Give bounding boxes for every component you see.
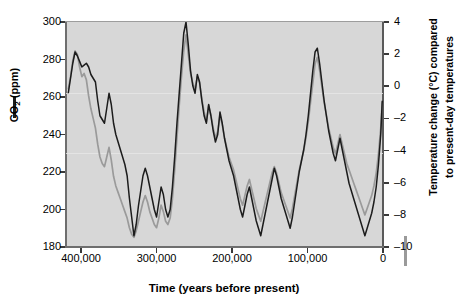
y-tick-right <box>384 85 389 87</box>
x-tick-label: 400,000 <box>41 252 121 264</box>
y-tick-label-left: 300 <box>21 15 61 27</box>
y-tick-label-left: 180 <box>21 240 61 252</box>
y-tick-label-left: 240 <box>21 128 61 140</box>
x-tick-label: 100,000 <box>268 252 348 264</box>
y-tick-right <box>384 182 389 184</box>
y-tick-label-right: –8 <box>394 208 434 220</box>
series-temperature-line <box>68 35 382 238</box>
y-tick-label-left: 200 <box>21 203 61 215</box>
y-tick-right <box>384 214 389 216</box>
series-co2-line <box>68 22 382 236</box>
y-tick-label-right: 0 <box>394 79 434 91</box>
y-tick-right <box>384 21 389 23</box>
y-tick-right <box>384 150 389 152</box>
y-tick-label-right: –2 <box>394 111 434 123</box>
y-tick-label-left: 260 <box>21 90 61 102</box>
y-tick-label-right: 4 <box>394 15 434 27</box>
x-tick-label: 200,000 <box>192 252 272 264</box>
y-tick-label-right: –10 <box>394 240 434 252</box>
y-tick-label-right: –6 <box>394 176 434 188</box>
y-tick-right <box>384 118 389 120</box>
series-layer <box>66 22 383 247</box>
right-axis-title-line2: to present-day temperatures <box>441 0 457 232</box>
y-tick-label-left: 220 <box>21 165 61 177</box>
y-tick-label-right: –4 <box>394 144 434 156</box>
left-axis-title: CO2 (ppm) <box>8 35 22 155</box>
plot-area <box>66 22 383 247</box>
y-tick-right <box>384 53 389 55</box>
y-tick-right <box>384 246 389 248</box>
left-axis-title-text: CO2 (ppm) <box>8 68 20 123</box>
y-tick-label-right: 2 <box>394 47 434 59</box>
x-tick-label: 0 <box>343 252 423 264</box>
x-axis-title: Time (years before present) <box>0 282 448 294</box>
y-tick-label-left: 280 <box>21 53 61 65</box>
x-tick-label: 300,000 <box>117 252 197 264</box>
